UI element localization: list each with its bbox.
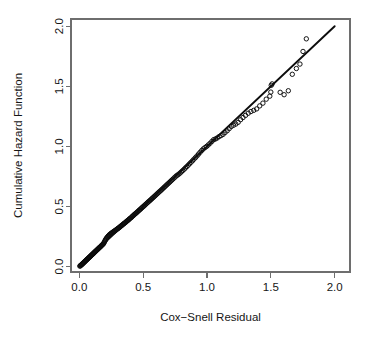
x-tick-label: 0.5 <box>135 281 151 293</box>
y-tick-label: 0.5 <box>53 198 65 214</box>
y-tick-label: 0.0 <box>53 259 65 275</box>
y-axis-title: Cumulative Hazard Function <box>12 73 24 218</box>
plot-canvas: 0.00.51.01.52.0 0.00.51.01.52.0 Cox−Snel… <box>0 0 375 342</box>
x-axis-title: Cox−Snell Residual <box>160 311 261 323</box>
cox-snell-residual-plot: 0.00.51.01.52.0 0.00.51.01.52.0 Cox−Snel… <box>0 0 375 342</box>
x-tick-label: 1.5 <box>263 281 279 293</box>
x-tick-label: 0.0 <box>71 281 87 293</box>
x-tick-label: 2.0 <box>327 281 343 293</box>
y-tick-label: 1.5 <box>53 78 65 94</box>
y-tick-label: 1.0 <box>53 138 65 154</box>
x-tick-label: 1.0 <box>199 281 215 293</box>
y-tick-label: 2.0 <box>53 18 65 34</box>
plot-background <box>0 0 375 342</box>
